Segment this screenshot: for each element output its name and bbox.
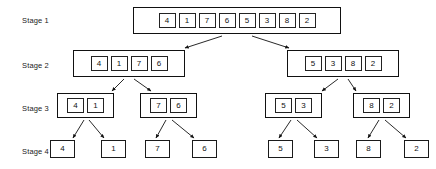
array-group-stage1-array: 41765382 xyxy=(133,7,341,34)
array-cell: 1 xyxy=(111,56,128,71)
arrow-a3c-right xyxy=(297,120,317,138)
leaf-cell: 6 xyxy=(192,140,217,158)
leaf-cell: 7 xyxy=(145,140,170,158)
arrow-a2l-right xyxy=(134,79,151,91)
leaf-cell: 5 xyxy=(268,140,293,158)
array-cell: 5 xyxy=(239,13,256,28)
array-cell: 2 xyxy=(383,98,400,113)
leaf-cell: 8 xyxy=(356,140,381,158)
array-group-stage3-g1: 41 xyxy=(57,93,114,118)
arrow-a3c-left xyxy=(279,120,291,138)
arrow-a1-left xyxy=(185,36,222,48)
array-cell: 1 xyxy=(87,98,104,113)
arrow-a3b-right xyxy=(172,120,194,138)
leaf-cell: 4 xyxy=(50,140,75,158)
arrow-a3d-right xyxy=(385,120,406,138)
array-cell: 3 xyxy=(259,13,276,28)
arrow-a2r-left xyxy=(322,79,338,91)
stage-label-1: Stage 1 xyxy=(22,17,49,25)
array-group-stage3-g2: 76 xyxy=(140,93,197,118)
arrow-a3a-right xyxy=(89,120,104,138)
merge-sort-diagram: Stage 1Stage 2Stage 3Stage 4 41765382417… xyxy=(0,0,436,169)
array-cell: 4 xyxy=(159,13,176,28)
array-cell: 8 xyxy=(279,13,296,28)
array-cell: 7 xyxy=(131,56,148,71)
array-cell: 4 xyxy=(91,56,108,71)
arrow-a3a-left xyxy=(73,120,84,138)
array-group-stage2-right: 5382 xyxy=(287,50,399,77)
array-cell: 3 xyxy=(325,56,342,71)
array-cell: 6 xyxy=(151,56,168,71)
array-cell: 6 xyxy=(170,98,187,113)
stage-label-3: Stage 3 xyxy=(22,105,49,113)
leaf-cell: 2 xyxy=(404,140,429,158)
array-cell: 7 xyxy=(150,98,167,113)
array-group-stage3-g4: 82 xyxy=(353,93,410,118)
array-cell: 6 xyxy=(219,13,236,28)
array-cell: 8 xyxy=(363,98,380,113)
array-cell: 5 xyxy=(275,98,292,113)
arrow-a2r-right xyxy=(348,79,356,91)
array-group-stage3-g3: 53 xyxy=(265,93,322,118)
array-cell: 2 xyxy=(299,13,316,28)
array-cell: 5 xyxy=(305,56,322,71)
arrow-a3d-left xyxy=(368,120,379,138)
stage-label-2: Stage 2 xyxy=(22,62,49,70)
arrow-a3b-left xyxy=(156,120,166,138)
array-cell: 4 xyxy=(67,98,84,113)
array-cell: 2 xyxy=(365,56,382,71)
leaf-cell: 3 xyxy=(314,140,339,158)
array-cell: 1 xyxy=(179,13,196,28)
leaf-cell: 1 xyxy=(101,140,126,158)
stage-label-4: Stage 4 xyxy=(22,148,49,156)
array-cell: 8 xyxy=(345,56,362,71)
array-cell: 7 xyxy=(199,13,216,28)
arrow-a2l-left xyxy=(112,79,124,91)
array-cell: 3 xyxy=(295,98,312,113)
array-group-stage2-left: 4176 xyxy=(73,50,185,77)
arrow-a1-right xyxy=(252,36,289,48)
